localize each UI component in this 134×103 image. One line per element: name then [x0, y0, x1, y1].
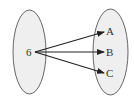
mapping-diagram: 6 A B C [0, 0, 134, 103]
codomain-element-a: A [106, 25, 114, 37]
codomain-element-b: B [106, 46, 113, 58]
codomain-element-c: C [106, 67, 113, 79]
domain-element-6: 6 [26, 46, 32, 58]
